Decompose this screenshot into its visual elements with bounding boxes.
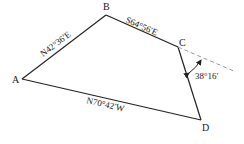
edge-ab	[22, 15, 106, 79]
vertex-label-a: A	[12, 74, 20, 85]
bearing-label-bc: S64°56′E	[124, 15, 160, 38]
vertex-label-d: D	[202, 122, 209, 133]
deflection-angle-label: 38°16′	[195, 71, 219, 81]
bc-extension-dashed	[178, 47, 236, 72]
vertex-label-b: B	[103, 1, 110, 12]
edge-da	[22, 79, 201, 120]
edge-cd	[178, 47, 201, 120]
vertex-label-c: C	[179, 37, 186, 48]
traverse-diagram: A B C D N42°36′E S64°56′E N70°42′W 38°16…	[0, 0, 244, 144]
